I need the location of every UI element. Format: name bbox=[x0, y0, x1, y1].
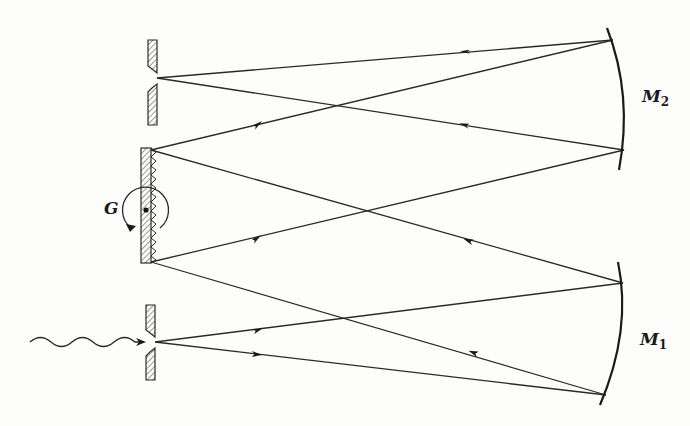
entrance-slit-upper-jaw bbox=[146, 305, 155, 337]
mirror-m2-label: M2 bbox=[641, 86, 669, 109]
arrow-icon bbox=[252, 121, 263, 130]
wavy-light-icon bbox=[30, 338, 141, 347]
ray-direction-arrows bbox=[251, 50, 478, 358]
ray-m2-to-exit-top bbox=[157, 40, 613, 78]
incoming-light bbox=[30, 338, 146, 347]
mirror-m1-label: M1 bbox=[639, 329, 667, 352]
ray-grating-to-m2-top bbox=[151, 40, 613, 150]
grating-body bbox=[141, 148, 151, 263]
grating-grooves bbox=[151, 148, 156, 263]
entrance-slit bbox=[146, 305, 155, 380]
ray-entrance-to-m1-top bbox=[155, 283, 623, 342]
pivot-dot bbox=[143, 207, 148, 212]
exit-slit-lower-jaw bbox=[148, 84, 157, 125]
ray-entrance-to-m1-bottom bbox=[155, 342, 606, 395]
entrance-slit-lower-jaw bbox=[146, 348, 155, 380]
ray-grating-to-m2-bottom bbox=[151, 150, 624, 262]
monochromator-diagram: G M2 M1 bbox=[0, 0, 690, 426]
ray-m1-to-grating-bottom bbox=[151, 262, 606, 395]
optical-rays bbox=[151, 40, 624, 395]
exit-slit bbox=[148, 40, 157, 125]
grating-label: G bbox=[104, 198, 119, 218]
rotation-arrow-icon bbox=[126, 224, 136, 232]
exit-slit-upper-jaw bbox=[148, 40, 157, 73]
grating bbox=[123, 148, 169, 263]
ray-m1-to-grating-top bbox=[151, 150, 623, 283]
ray-m2-to-exit-bottom bbox=[157, 78, 624, 150]
